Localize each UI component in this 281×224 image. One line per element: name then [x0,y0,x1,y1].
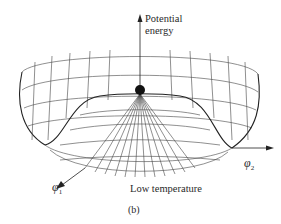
mexican-hat-potential-diagram: Potential energy φ1 φ2 Low temperature (… [0,0,281,224]
condition-label: Low temperature [130,183,202,194]
phi2-label: φ2 [244,156,254,172]
ball-marker [135,85,145,95]
phi1-symbol: φ [52,180,59,194]
y-axis-label-line1: Potential [145,13,182,25]
phi1-subscript: 1 [59,188,63,196]
phi1-label: φ1 [52,180,62,196]
phi2-subscript: 2 [251,164,255,172]
y-axis-label-line2: energy [145,25,182,37]
y-axis-label: Potential energy [145,13,182,37]
phi2-symbol: φ [244,156,251,170]
phi1-axis [62,168,85,185]
panel-label: (b) [128,204,140,215]
arrowhead-icon [138,14,143,22]
